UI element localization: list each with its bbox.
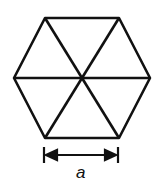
dimension-label: a — [76, 163, 85, 182]
hexagon-diagram: a — [0, 0, 160, 186]
arrowhead-right-icon — [105, 150, 116, 160]
arrowhead-left-icon — [46, 150, 57, 160]
dimension-marker — [44, 147, 118, 163]
